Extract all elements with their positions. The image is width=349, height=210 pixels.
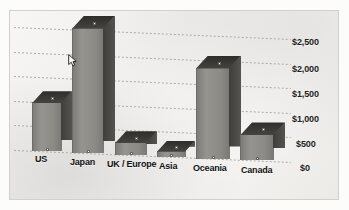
- bar-canada[interactable]: [240, 122, 285, 160]
- bar-us[interactable]: [32, 91, 72, 151]
- bar-asia[interactable]: [157, 141, 195, 157]
- bar-label-oceania: Oceania: [193, 163, 227, 173]
- chart-plot-area[interactable]: $2,500 $2,000 $1,500 $1,000 $500 $0 USJa…: [9, 10, 339, 200]
- bar-front-face: [72, 28, 104, 153]
- bar-japan[interactable]: [72, 16, 115, 153]
- ytick-label-500: $500: [296, 139, 316, 149]
- bar-uk-europe[interactable]: [115, 131, 157, 155]
- bar-selection-handle[interactable]: [175, 146, 178, 149]
- bar-selection-handle[interactable]: [135, 137, 138, 140]
- bar-selection-handle[interactable]: [51, 97, 54, 100]
- chart-screenshot: $2,500 $2,000 $1,500 $1,000 $500 $0 USJa…: [0, 0, 349, 210]
- ytick-label-2500: $2,500: [292, 37, 319, 47]
- gridline-1500: [14, 76, 291, 89]
- ytick-label-2000: $2,000: [292, 64, 319, 74]
- bar-label-us: US: [35, 154, 47, 164]
- bar-label-uk-europe: UK / Europe: [107, 159, 156, 169]
- bar-oceania[interactable]: [196, 56, 241, 159]
- bar-label-asia: Asia: [159, 161, 177, 171]
- gridline-2500: [14, 27, 291, 40]
- ytick-label-1000: $1,000: [292, 114, 319, 124]
- bar-base-handle[interactable]: [212, 156, 215, 159]
- bar-base-handle[interactable]: [46, 148, 49, 151]
- bar-base-handle[interactable]: [170, 154, 173, 157]
- bar-selection-handle[interactable]: [262, 128, 265, 131]
- ytick-label-0: $0: [300, 163, 310, 173]
- bar-label-japan: Japan: [70, 157, 95, 167]
- bar-selection-handle[interactable]: [218, 62, 221, 65]
- gridline-2000: [14, 52, 291, 65]
- bar-label-canada: Canada: [241, 165, 272, 175]
- bar-base-handle[interactable]: [256, 157, 259, 160]
- bar-base-handle[interactable]: [87, 150, 90, 153]
- bar-right-face: [103, 16, 115, 141]
- ytick-label-1500: $1,500: [292, 89, 319, 99]
- bar-base-handle[interactable]: [130, 152, 133, 155]
- bar-selection-handle[interactable]: [93, 22, 96, 25]
- bar-front-face: [196, 68, 230, 159]
- bar-front-face: [32, 102, 62, 151]
